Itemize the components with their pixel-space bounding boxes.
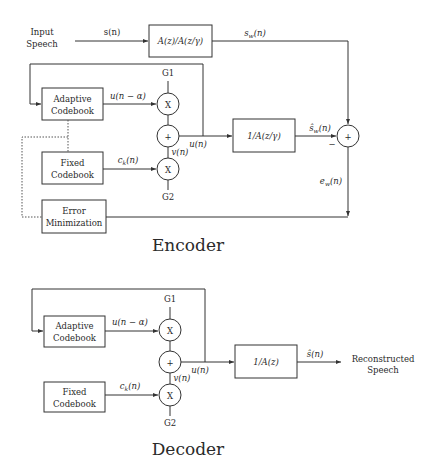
decoder-fixed-codebook-label-2: Codebook: [53, 399, 97, 409]
decoder-signal-u-alpha-label: u(n − α): [112, 317, 148, 327]
decoder-signal-u-label: u(n): [191, 365, 209, 375]
minus-sign: −: [328, 139, 335, 149]
input-speech-label-2: Speech: [26, 39, 58, 49]
multiply-symbol: X: [167, 391, 174, 401]
adaptive-codebook-label: Adaptive: [52, 94, 91, 104]
decoder-fixed-codebook-label: Fixed: [63, 387, 87, 397]
fixed-codebook-label-2: Codebook: [51, 170, 95, 180]
signal-sw-label: sw(n): [244, 28, 266, 39]
decoder-signal-s-hat-label: ŝ(n): [307, 349, 323, 359]
decoder-synthesis-filter-label: 1/A(z): [253, 357, 279, 367]
synthesis-filter-label: 1/A(z/γ): [247, 131, 280, 141]
decoder: Adaptive Codebook u(n − α) G1 X + v(n) X…: [32, 289, 415, 459]
fixed-codebook-label: Fixed: [61, 158, 85, 168]
signal-v-label: v(n): [172, 147, 189, 157]
decoder-adaptive-codebook-label-2: Codebook: [53, 333, 97, 343]
celp-diagram: Input Speech s(n) A(z)/A(z/γ) sw(n) Adap…: [0, 0, 438, 472]
gain2-label: G2: [162, 192, 174, 202]
input-speech-label: Input: [30, 27, 54, 37]
encoder-title: Encoder: [152, 235, 225, 255]
decoder-signal-v-label: v(n): [174, 373, 191, 383]
sw-path: [212, 41, 348, 124]
encoder: Input Speech s(n) A(z)/A(z/γ) sw(n) Adap…: [22, 25, 359, 255]
decoder-signal-ck-label: ck(n): [120, 381, 141, 392]
signal-u-alpha-label: u(n − α): [110, 91, 146, 101]
decoder-gain2-label: G2: [164, 418, 176, 428]
multiply-symbol: X: [165, 100, 172, 110]
signal-s-label: s(n): [104, 27, 120, 37]
add-symbol: +: [344, 132, 351, 142]
adaptive-codebook-label-2: Codebook: [51, 106, 95, 116]
signal-u-label: u(n): [189, 139, 207, 149]
add-symbol: +: [164, 132, 171, 142]
error-minimization-label: Error: [62, 206, 86, 216]
add-symbol: +: [166, 358, 173, 368]
decoder-gain1-label: G1: [164, 294, 176, 304]
signal-sw-hat-label: ŝw(n): [309, 123, 331, 134]
multiply-symbol: X: [165, 165, 172, 175]
signal-ew-label: ew(n): [320, 176, 342, 187]
error-minimization-label-2: Minimization: [46, 218, 103, 228]
reconstructed-speech-label-2: Speech: [367, 365, 399, 375]
signal-ck-label: ck(n): [118, 155, 139, 166]
multiply-symbol: X: [167, 326, 174, 336]
error-minimization-block: [42, 200, 106, 233]
decoder-title: Decoder: [152, 439, 225, 459]
gain1-label: G1: [162, 68, 174, 78]
weighting-filter-label: A(z)/A(z/γ): [157, 36, 203, 46]
reconstructed-speech-label: Reconstructed: [352, 354, 415, 364]
decoder-adaptive-codebook-label: Adaptive: [54, 321, 93, 331]
